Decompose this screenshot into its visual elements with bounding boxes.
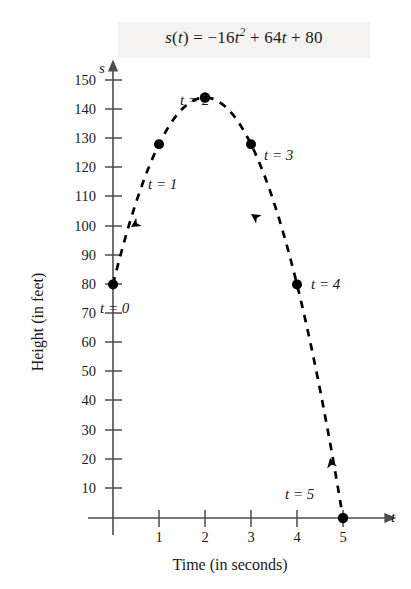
y-tick-label-110: 110 [50, 189, 96, 204]
direction-arrowheads [128, 210, 337, 469]
y-tick-label-100: 100 [50, 219, 96, 234]
y-tick-label-70: 70 [50, 306, 96, 321]
plot-canvas [0, 0, 411, 589]
y-tick-label-80: 80 [50, 277, 96, 292]
y-axis-title: Height (in feet) [29, 222, 47, 422]
data-points [108, 92, 348, 523]
point-label-t3: t = 3 [264, 148, 293, 163]
point-label-t0: t = 0 [100, 301, 129, 316]
projectile-height-figure: s(t) = −16t2 + 64t + 80 [0, 0, 411, 589]
y-tick-label-150: 150 [50, 73, 96, 88]
x-tick-label-2: 2 [193, 530, 217, 545]
x-axis-symbol: t [391, 509, 395, 526]
data-point-t3 [246, 139, 256, 149]
point-label-t2: t = 2 [180, 93, 209, 108]
data-point-t1 [154, 139, 164, 149]
point-label-t4: t = 4 [311, 277, 340, 292]
y-tick-label-140: 140 [50, 102, 96, 117]
x-tick-label-3: 3 [239, 530, 263, 545]
data-point-t0 [108, 279, 118, 289]
trajectory-curve [113, 98, 343, 518]
y-tick-label-90: 90 [50, 248, 96, 263]
x-tick-label-5: 5 [331, 530, 355, 545]
y-tick-label-30: 30 [50, 423, 96, 438]
x-tick-label-4: 4 [285, 530, 309, 545]
data-point-t5 [338, 513, 348, 523]
y-axis-symbol: s [99, 60, 105, 77]
y-tick-label-50: 50 [50, 364, 96, 379]
point-label-t5: t = 5 [285, 487, 314, 502]
point-label-t1: t = 1 [148, 177, 177, 192]
y-tick-label-40: 40 [50, 393, 96, 408]
y-tick-label-130: 130 [50, 131, 96, 146]
y-tick-label-20: 20 [50, 452, 96, 467]
y-tick-label-10: 10 [50, 481, 96, 496]
x-tick-label-1: 1 [147, 530, 171, 545]
data-point-t4 [292, 279, 302, 289]
direction-arrow-descending-upper [248, 210, 261, 224]
x-axis-title: Time (in seconds) [100, 556, 360, 574]
direction-arrow-descending-lower [325, 457, 337, 469]
y-tick-label-60: 60 [50, 335, 96, 350]
y-tick-label-120: 120 [50, 160, 96, 175]
